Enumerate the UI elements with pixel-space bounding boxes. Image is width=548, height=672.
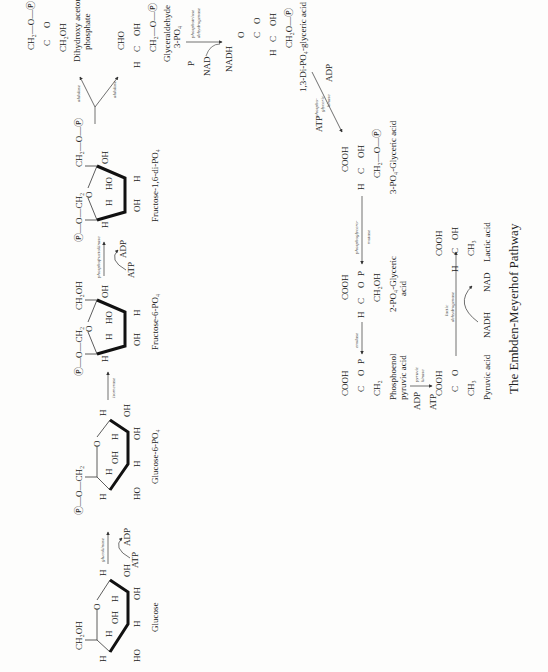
svg-text:ATP: ATP	[314, 116, 324, 132]
svg-text:phosphoglycero-: phosphoglycero-	[354, 220, 359, 255]
svg-text:HO: HO	[132, 487, 142, 500]
svg-text:CH₂—O—Ⓟ: CH₂—O—Ⓟ	[372, 129, 382, 178]
svg-text:ATP: ATP	[428, 394, 438, 410]
svg-text:OH: OH	[100, 285, 110, 298]
svg-text:C: C	[356, 386, 366, 392]
svg-text:COOH: COOH	[340, 370, 350, 396]
svg-text:C: C	[450, 248, 460, 254]
svg-text:CH₂—O—Ⓟ: CH₂—O—Ⓟ	[26, 1, 36, 50]
svg-text:Pyruvic acid: Pyruvic acid	[482, 354, 492, 400]
svg-text:H: H	[100, 221, 110, 228]
svg-text:CH₂—O—Ⓟ: CH₂—O—Ⓟ	[148, 3, 158, 52]
svg-text:H: H	[132, 460, 142, 467]
svg-text:H: H	[104, 199, 114, 206]
svg-text:dehydrogenase: dehydrogenase	[450, 291, 455, 322]
glucokinase-step: glucokinase ATP ADP	[100, 528, 140, 568]
svg-text:OH: OH	[132, 23, 142, 36]
svg-text:O: O	[84, 325, 94, 332]
svg-text:2-PO₄-Glyceric: 2-PO₄-Glyceric	[388, 256, 398, 312]
svg-text:Phosphoenol: Phosphoenol	[388, 353, 398, 400]
svg-text:O: O	[252, 17, 262, 24]
svg-text:C: C	[356, 168, 366, 174]
pathway-diagram: CH₂OH O H H OH H H HO H OH OH Glucose gl…	[0, 0, 548, 672]
svg-text:H: H	[132, 620, 142, 627]
svg-text:Ⓟ—O—CH₂: Ⓟ—O—CH₂	[74, 327, 84, 376]
svg-text:C: C	[42, 40, 52, 46]
svg-text:ADP: ADP	[122, 528, 132, 546]
svg-text:NAD: NAD	[482, 272, 492, 292]
svg-text:O: O	[450, 369, 460, 376]
svg-text:HO: HO	[132, 649, 142, 662]
1-3-diphosphoglyceric-acid-structure: O C O H C OH CH₂O—Ⓟ 1,3-Di-PO₄-glyceric …	[236, 1, 308, 92]
svg-text:C: C	[132, 46, 142, 52]
svg-text:H: H	[356, 311, 366, 318]
svg-text:CH₂OH: CH₂OH	[74, 281, 84, 310]
svg-text:COOH: COOH	[340, 274, 350, 300]
svg-text:enolase: enolase	[354, 332, 359, 348]
svg-text:H: H	[132, 61, 142, 68]
svg-text:kinase: kinase	[420, 368, 425, 382]
pathway-figure: CH₂OH O H H OH H H HO H OH OH Glucose gl…	[0, 0, 548, 672]
glucose-structure: CH₂OH O H H OH H H HO H OH OH Glucose	[74, 564, 160, 662]
figure-title: The Embden-Meyerhof Pathway	[506, 223, 521, 394]
glucose-label: Glucose	[150, 603, 160, 633]
svg-text:CH₃: CH₃	[466, 240, 476, 256]
svg-text:OH: OH	[100, 151, 110, 164]
svg-text:pyruvic: pyruvic	[414, 366, 419, 383]
svg-text:COOH: COOH	[434, 370, 444, 396]
3-phosphoglyceric-acid-structure: COOH H C OH CH₂—O—Ⓟ 3-PO₄-Glyceric acid	[340, 120, 398, 194]
svg-text:aldolase: aldolase	[76, 84, 81, 102]
triose-dehydrogenase-step: phosphotriose dehydrogenase P NAD NADH	[186, 7, 234, 76]
svg-text:CHO: CHO	[116, 30, 126, 50]
svg-text:H: H	[268, 49, 278, 56]
svg-text:ADP: ADP	[118, 240, 128, 258]
glucose-6-phosphate-label: Glucose-6-PO₄	[150, 429, 160, 484]
svg-text:phosphate: phosphate	[82, 14, 92, 51]
svg-text:OH: OH	[132, 427, 142, 440]
svg-text:COOH: COOH	[434, 230, 444, 256]
svg-text:O: O	[92, 440, 102, 447]
fructose-1-6-diphosphate-structure: Ⓟ—O—CH₂ CH₂—O—Ⓟ O H H HO OH OH H Fructos…	[74, 118, 160, 242]
svg-text:Lactic acid: Lactic acid	[482, 222, 492, 262]
svg-text:phosphofructokinase: phosphofructokinase	[96, 236, 101, 279]
svg-text:O: O	[42, 21, 52, 28]
svg-text:ADP: ADP	[412, 392, 422, 410]
svg-text:H: H	[132, 175, 142, 182]
svg-text:ATP: ATP	[130, 552, 140, 568]
svg-text:H: H	[110, 433, 120, 440]
svg-text:lactic: lactic	[444, 304, 449, 316]
svg-text:phosphotriose: phosphotriose	[190, 9, 195, 39]
pyruvic-acid-structure: COOH C O CH₃ Pyruvic acid	[434, 354, 492, 400]
svg-text:1,3-Di-PO₄-glyceric acid: 1,3-Di-PO₄-glyceric acid	[298, 1, 308, 92]
fructose-1-6-diphosphate-label: Fructose-1,6-di-PO₄	[150, 149, 160, 222]
svg-text:P: P	[356, 359, 366, 364]
dhap-structure: CH₂—O—Ⓟ C O CH₂OH Dihydroxy acetone phos…	[26, 0, 92, 62]
svg-text:H: H	[356, 183, 366, 190]
svg-text:kinase: kinase	[326, 93, 331, 107]
svg-text:OH: OH	[132, 199, 142, 212]
svg-text:CH₂O—Ⓟ: CH₂O—Ⓟ	[284, 8, 294, 48]
fructose-6-phosphate-label: Fructose-6-PO₄	[150, 294, 160, 350]
svg-text:CH₂—O—Ⓟ: CH₂—O—Ⓟ	[74, 118, 84, 167]
glucose-6-phosphate-structure: Ⓟ—O—CH₂ O H H OH H H HO H OH OH Glucose-…	[74, 404, 160, 515]
svg-text:C: C	[356, 298, 366, 304]
glyceraldehyde-3-phosphate-structure: CHO H C OH CH₂—O—Ⓟ Glyceraldehyde 3-PO₄	[116, 3, 182, 68]
svg-text:OH: OH	[132, 333, 142, 346]
svg-text:OH: OH	[110, 611, 120, 624]
svg-text:Ⓟ—O—CH₂: Ⓟ—O—CH₂	[74, 193, 84, 242]
svg-text:glucokinase: glucokinase	[100, 537, 105, 562]
svg-text:CH₂OH: CH₂OH	[74, 621, 84, 650]
svg-text:CH₂OH: CH₂OH	[58, 23, 68, 52]
svg-text:H: H	[98, 493, 108, 500]
svg-text:3-PO₄-Glyceric acid: 3-PO₄-Glyceric acid	[388, 120, 398, 194]
svg-text:CH₂: CH₂	[372, 380, 382, 396]
svg-text:Ⓟ—O—CH₂: Ⓟ—O—CH₂	[74, 466, 84, 515]
svg-text:C: C	[268, 36, 278, 42]
isomerase-step: isomerase	[108, 372, 116, 400]
svg-text:H: H	[98, 655, 108, 662]
lactic-acid-structure: COOH H C OH CH₃ Lactic acid	[434, 222, 492, 272]
svg-text:NADH: NADH	[224, 46, 234, 72]
svg-text:ADP: ADP	[324, 64, 334, 82]
svg-text:HO: HO	[104, 311, 114, 324]
svg-text:mutase: mutase	[366, 229, 371, 244]
